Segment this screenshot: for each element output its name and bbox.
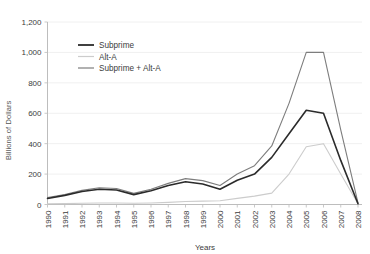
x-axis-title: Years <box>195 243 215 252</box>
x-tick-label: 1993 <box>95 210 104 228</box>
y-tick-label: 0 <box>37 201 42 210</box>
x-tick-label: 1997 <box>164 210 173 228</box>
y-tick-label: 1,000 <box>21 48 42 57</box>
x-tick-label: 2001 <box>233 210 242 228</box>
x-tick-label: 1996 <box>147 210 156 228</box>
chart-svg: 02004006008001,0001,200 1990199119921993… <box>0 0 370 254</box>
x-tick-label: 2005 <box>302 210 311 228</box>
x-tick-label: 2006 <box>320 210 329 228</box>
legend-label: Subprime <box>99 41 134 50</box>
y-tick-label: 1,200 <box>21 18 42 27</box>
x-tick-label: 1999 <box>199 210 208 228</box>
y-tick-label: 400 <box>28 140 42 149</box>
x-tick-label: 1994 <box>113 210 122 228</box>
legend-label: Alt-A <box>99 53 117 62</box>
y-tick-label: 600 <box>28 109 42 118</box>
x-tick-label: 1991 <box>61 210 70 228</box>
line-chart: 02004006008001,0001,200 1990199119921993… <box>0 0 370 254</box>
y-tick-label: 800 <box>28 79 42 88</box>
legend-label: Subprime + Alt-A <box>99 64 161 73</box>
x-tick-label: 2000 <box>216 210 225 228</box>
y-axis-title: Billions of Dollars <box>4 100 13 160</box>
x-tick-label: 2004 <box>285 210 294 228</box>
x-tick-label: 1990 <box>44 210 53 228</box>
x-tick-label: 2003 <box>268 210 277 228</box>
x-tick-label: 2008 <box>354 210 363 228</box>
y-tick-label: 200 <box>28 170 42 179</box>
x-tick-label: 1998 <box>182 210 191 228</box>
x-tick-label: 2007 <box>337 210 346 228</box>
x-tick-label: 1995 <box>130 210 139 228</box>
x-tick-label: 1992 <box>78 210 87 228</box>
x-tick-label: 2002 <box>251 210 260 228</box>
